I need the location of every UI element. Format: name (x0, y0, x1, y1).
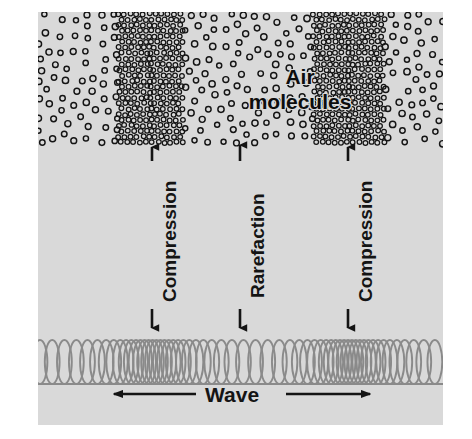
illustration-panel: Air molecules (38, 12, 443, 425)
label-wave: Wave (205, 383, 259, 407)
sound-wave-diagram: Air molecules (0, 0, 472, 439)
label-compression-left: Compression (159, 181, 181, 302)
spring-coil-wave (38, 328, 443, 388)
label-compression-right: Compression (355, 181, 377, 302)
label-rarefaction: Rarefaction (247, 193, 269, 298)
